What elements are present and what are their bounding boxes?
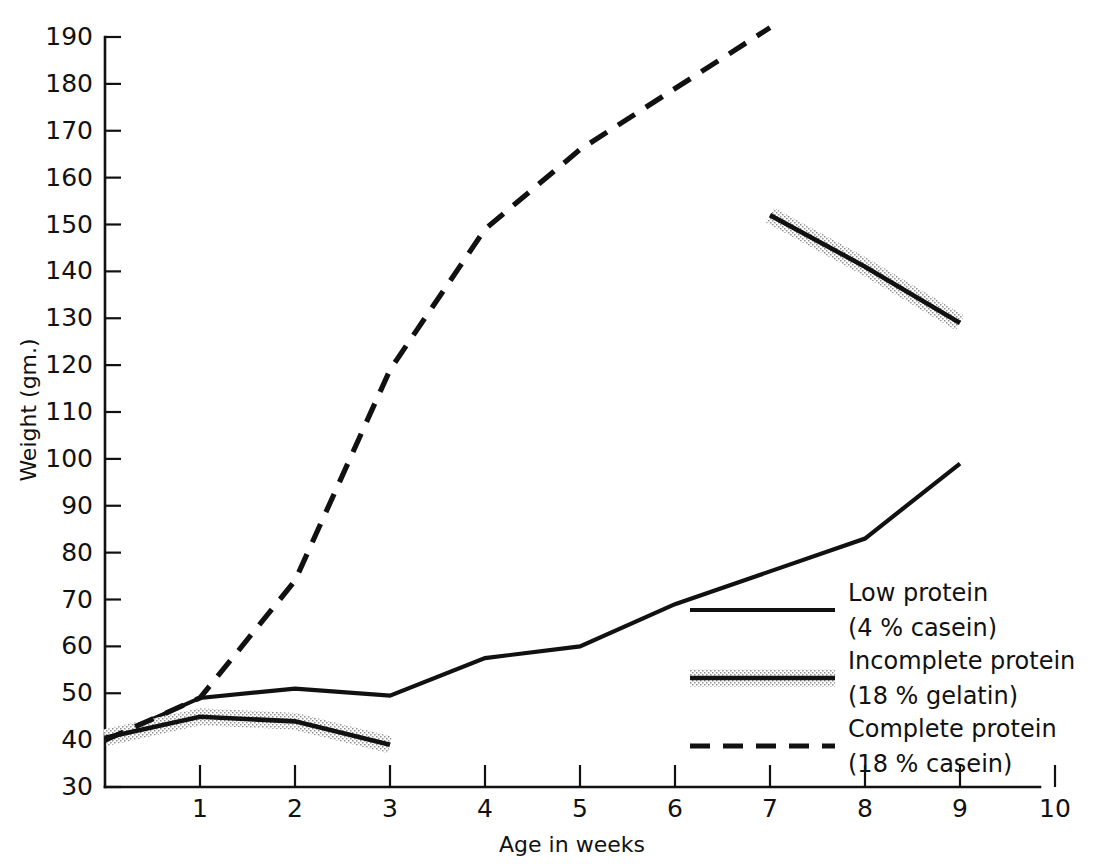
x-tick-label-9: 9 xyxy=(952,794,968,823)
x-tick-label-2: 2 xyxy=(287,794,303,823)
y-tick-label-90: 90 xyxy=(61,491,93,520)
legend-sublabel-incomplete-protein: (18 % gelatin) xyxy=(848,682,1018,710)
x-axis-title: Age in weeks xyxy=(499,832,645,857)
x-tick-label-1: 1 xyxy=(192,794,208,823)
x-tick-label-10: 10 xyxy=(1039,794,1071,823)
legend-label-incomplete-protein: Incomplete protein xyxy=(848,647,1075,675)
x-tick-label-8: 8 xyxy=(857,794,873,823)
y-tick-label-100: 100 xyxy=(45,444,93,473)
y-tick-label-50: 50 xyxy=(61,678,93,707)
legend-sublabel-low-protein: (4 % casein) xyxy=(848,614,997,642)
y-tick-label-130: 130 xyxy=(45,303,93,332)
y-tick-label-110: 110 xyxy=(45,397,93,426)
legend-sublabel-complete-protein: (18 % casein) xyxy=(848,750,1012,778)
x-tick-label-3: 3 xyxy=(382,794,398,823)
y-tick-label-170: 170 xyxy=(45,116,93,145)
y-tick-label-30: 30 xyxy=(61,772,93,801)
y-axis-title: Weight (gm.) xyxy=(16,338,41,481)
y-tick-label-180: 180 xyxy=(45,69,93,98)
legend-label-low-protein: Low protein xyxy=(848,579,988,607)
y-tick-label-140: 140 xyxy=(45,256,93,285)
y-tick-label-60: 60 xyxy=(61,631,93,660)
y-tick-label-160: 160 xyxy=(45,163,93,192)
x-tick-label-6: 6 xyxy=(667,794,683,823)
y-tick-label-80: 80 xyxy=(61,538,93,567)
y-tick-label-190: 190 xyxy=(45,22,93,51)
y-tick-label-70: 70 xyxy=(61,585,93,614)
chart-figure: 3040506070809010011012013014015016017018… xyxy=(0,0,1096,864)
y-tick-label-120: 120 xyxy=(45,350,93,379)
x-tick-label-5: 5 xyxy=(572,794,588,823)
y-tick-label-40: 40 xyxy=(61,725,93,754)
x-tick-label-4: 4 xyxy=(477,794,493,823)
weight-vs-age-line-chart: 3040506070809010011012013014015016017018… xyxy=(0,0,1096,864)
y-tick-label-150: 150 xyxy=(45,210,93,239)
legend-label-complete-protein: Complete protein xyxy=(848,715,1057,743)
x-tick-label-7: 7 xyxy=(762,794,778,823)
